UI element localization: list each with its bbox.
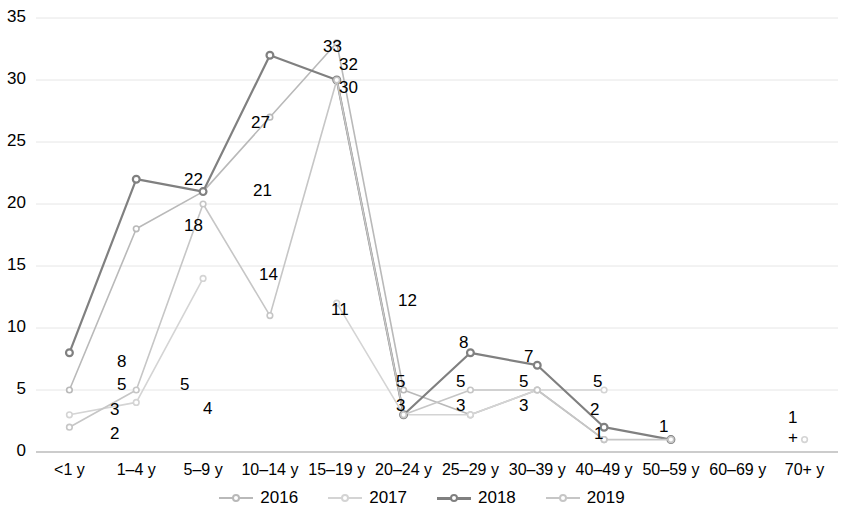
x-axis-tick: 30–39 y (504, 461, 571, 479)
data-point (133, 226, 139, 232)
data-label: 14 (259, 265, 278, 285)
data-label: 5 (593, 372, 602, 392)
x-axis-tick: 60–69 y (704, 461, 771, 479)
x-axis-tick: 25–29 y (437, 461, 504, 479)
x-axis-tick: 70+ y (771, 461, 838, 479)
series-line-2019 (69, 80, 671, 440)
data-point (133, 400, 139, 406)
data-label: 5 (396, 372, 405, 392)
y-axis-tick: 30 (0, 69, 26, 89)
data-label: 7 (524, 347, 533, 367)
data-point (200, 201, 206, 207)
data-label: 18 (184, 216, 203, 236)
legend-swatch-icon (219, 492, 253, 504)
data-label: + (788, 428, 798, 448)
data-point (67, 387, 73, 393)
data-label: 1 (659, 417, 668, 437)
legend-item-2017[interactable]: 2017 (328, 488, 407, 508)
legend-label: 2018 (478, 488, 516, 508)
data-point (267, 313, 273, 319)
data-label: 1 (788, 408, 797, 428)
data-label: 2 (590, 400, 599, 420)
line-chart: 05101520253035 <1 y1–4 y5–9 y10–14 y15–1… (0, 0, 844, 522)
data-label: 33 (323, 37, 342, 57)
x-axis-tick: 15–19 y (303, 461, 370, 479)
legend-item-2016[interactable]: 2016 (219, 488, 298, 508)
y-axis-tick: 5 (0, 379, 26, 399)
x-axis-tick: 1–4 y (103, 461, 170, 479)
data-label: 4 (203, 399, 212, 419)
data-label: 21 (253, 181, 272, 201)
data-point (468, 387, 474, 393)
legend-item-2019[interactable]: 2019 (546, 488, 625, 508)
data-label: 5 (519, 372, 528, 392)
data-label: 2 (110, 424, 119, 444)
data-label: 8 (459, 333, 468, 353)
data-point (534, 387, 540, 393)
legend-swatch-icon (328, 492, 362, 504)
x-axis-tick: 20–24 y (370, 461, 437, 479)
legend-label: 2016 (260, 488, 298, 508)
data-label: 1 (594, 424, 603, 444)
data-point (468, 412, 474, 418)
data-label: 5 (117, 375, 126, 395)
legend-item-2018[interactable]: 2018 (437, 488, 516, 508)
data-point (67, 424, 73, 430)
data-label: 11 (331, 300, 349, 320)
data-label: 32 (339, 55, 358, 75)
data-label: 5 (456, 372, 465, 392)
x-axis-tick: 5–9 y (170, 461, 237, 479)
data-label: 3 (519, 396, 528, 416)
x-axis-tick: 50–59 y (638, 461, 705, 479)
legend-label: 2019 (587, 488, 625, 508)
data-label: 3 (396, 396, 405, 416)
data-point (200, 276, 206, 282)
data-label: 22 (184, 170, 203, 190)
data-point (802, 437, 808, 443)
data-label: 8 (117, 352, 126, 372)
legend-swatch-icon (437, 492, 471, 504)
data-label: 3 (110, 400, 119, 420)
x-axis-tick: 40–49 y (571, 461, 638, 479)
y-axis-tick: 20 (0, 193, 26, 213)
data-point (133, 176, 140, 183)
legend-label: 2017 (369, 488, 407, 508)
y-axis-tick: 35 (0, 7, 26, 27)
data-point (534, 362, 541, 369)
data-point (67, 412, 73, 418)
data-label: 27 (251, 113, 270, 133)
data-label: 12 (398, 291, 417, 311)
data-point (66, 349, 73, 356)
data-label: 3 (456, 396, 465, 416)
series-line-2017 (337, 303, 604, 415)
x-axis-tick: 10–14 y (237, 461, 304, 479)
data-point (668, 437, 674, 443)
data-label: 30 (339, 78, 358, 98)
chart-canvas (0, 0, 844, 522)
data-label: 5 (180, 375, 189, 395)
x-axis-tick: <1 y (36, 461, 103, 479)
legend-swatch-icon (546, 492, 580, 504)
y-axis-tick: 0 (0, 441, 26, 461)
data-point (267, 52, 274, 59)
y-axis-tick: 25 (0, 131, 26, 151)
y-axis-tick: 15 (0, 255, 26, 275)
y-axis-tick: 10 (0, 317, 26, 337)
data-point (133, 387, 139, 393)
chart-legend: 2016201720182019 (0, 488, 844, 508)
